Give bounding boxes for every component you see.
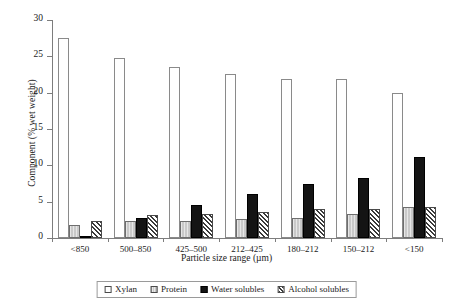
x-axis-tick	[331, 238, 332, 242]
x-axis-tick	[52, 238, 53, 242]
legend-item-label: Xylan	[115, 284, 137, 294]
bar-alcohol	[314, 209, 325, 238]
bar-xylan	[281, 79, 292, 238]
legend-item-label: Water solubles	[211, 284, 264, 294]
bar-alcohol	[369, 209, 380, 238]
x-axis-title: Particle size range (µm)	[0, 253, 453, 263]
bar-alcohol	[258, 212, 269, 238]
plot-area: 051015202530 <850500–850425–500212–42518…	[52, 20, 442, 238]
y-axis-tick-label: 15	[34, 122, 44, 132]
x-axis-tick	[163, 238, 164, 242]
bar-water	[303, 184, 314, 239]
bar-protein	[69, 225, 80, 238]
legend-item-label: Protein	[161, 284, 187, 294]
bar-group-bars	[386, 20, 442, 238]
bar-xylan	[392, 93, 403, 238]
y-axis-tick-label: 20	[34, 86, 44, 96]
bar-xylan	[58, 38, 69, 238]
bar-group	[275, 20, 331, 238]
x-axis-line	[52, 238, 442, 239]
legend-item: Xylan	[104, 284, 137, 294]
bar-group-bars	[275, 20, 331, 238]
bar-group	[108, 20, 164, 238]
x-axis-tick	[442, 238, 443, 242]
y-axis-tick-label: 5	[38, 195, 43, 205]
bar-alcohol	[147, 215, 158, 238]
legend-item: Protein	[150, 284, 187, 294]
bar-water	[191, 205, 202, 238]
x-axis-tick	[219, 238, 220, 242]
bar-group-bars	[331, 20, 387, 238]
bar-xylan	[336, 79, 347, 238]
x-axis-tick	[275, 238, 276, 242]
bar-group-bars	[219, 20, 275, 238]
bar-chart-figure: Component (% wet weight) 051015202530 <8…	[0, 0, 453, 307]
hatched-square-swatch	[277, 286, 284, 293]
bar-protein	[403, 207, 414, 238]
bar-water	[80, 236, 91, 238]
light-gray-square-swatch	[150, 286, 157, 293]
bar-protein	[236, 219, 247, 238]
bar-group-bars	[163, 20, 219, 238]
bar-protein	[125, 221, 136, 238]
bar-protein	[180, 221, 191, 238]
y-axis-title: Component (% wet weight)	[27, 43, 37, 223]
black-square-swatch	[200, 286, 207, 293]
x-axis-tick	[386, 238, 387, 242]
bar-xylan	[225, 74, 236, 238]
bar-protein	[347, 214, 358, 238]
y-axis-tick-label: 30	[34, 13, 44, 23]
bar-group	[331, 20, 387, 238]
bar-group	[386, 20, 442, 238]
legend-item: Alcohol solubles	[277, 284, 349, 294]
bar-water	[247, 194, 258, 238]
bar-xylan	[114, 58, 125, 238]
y-axis-tick-label: 0	[38, 231, 43, 241]
bar-xylan	[169, 67, 180, 238]
bar-water	[358, 178, 369, 238]
y-axis-tick-label: 25	[34, 49, 44, 59]
empty-square-swatch	[104, 286, 111, 293]
bar-alcohol	[202, 214, 213, 238]
bar-water	[414, 157, 425, 238]
bar-alcohol	[91, 221, 102, 238]
bar-protein	[292, 218, 303, 238]
y-axis-tick-label: 10	[34, 158, 44, 168]
x-axis-tick	[108, 238, 109, 242]
bar-group	[219, 20, 275, 238]
bar-group-bars	[108, 20, 164, 238]
legend-item: Water solubles	[200, 284, 264, 294]
chart-legend: XylanProteinWater solublesAlcohol solubl…	[96, 281, 357, 298]
bar-water	[136, 218, 147, 238]
bar-group-bars	[52, 20, 108, 238]
legend-item-label: Alcohol solubles	[288, 284, 349, 294]
bar-group	[163, 20, 219, 238]
bar-alcohol	[425, 207, 436, 238]
bar-group	[52, 20, 108, 238]
